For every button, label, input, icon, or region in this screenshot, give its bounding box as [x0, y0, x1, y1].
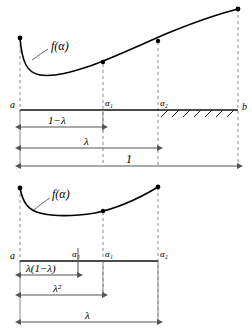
dimension-label-lambda-upper: λ — [83, 135, 89, 147]
point-label-alpha1-upper: α₁ — [105, 98, 113, 108]
curve-marker-alpha1-upper — [101, 60, 105, 64]
curve-marker-alpha1-lower — [101, 209, 105, 213]
curve-marker-alpha2-upper — [156, 39, 160, 43]
dimension-label-one-minus-lambda: 1−λ — [48, 114, 66, 126]
point-label-alpha1-lower: α₁ — [105, 249, 113, 259]
dimension-label-lambda-squared: λ² — [52, 282, 62, 294]
function-label-upper: f(α) — [51, 39, 69, 53]
golden-section-diagram: f(α) a b α₁ α₂ 1−λ λ — [0, 0, 252, 333]
curve-marker-a-lower — [18, 186, 23, 191]
dimension-label-unit: 1 — [126, 152, 132, 166]
point-label-alpha2-lower: α₂ — [160, 249, 168, 259]
axis-label-a-lower: a — [10, 250, 15, 261]
curve-marker-a-upper — [18, 36, 23, 41]
function-label-lower: f(α) — [52, 187, 70, 201]
axis-label-b-upper: b — [242, 101, 247, 112]
curve-marker-alpha2-lower — [156, 185, 161, 190]
axis-label-a-upper: a — [10, 99, 15, 110]
point-label-alpha2-upper: α₂ — [160, 98, 168, 108]
curve-marker-b-upper — [236, 7, 241, 12]
dimension-label-lambda-one-minus-lambda: λ(1−λ) — [25, 262, 56, 275]
dimension-label-lambda-lower: λ — [84, 309, 90, 321]
point-label-alpha3-lower: α₃ — [72, 249, 80, 259]
